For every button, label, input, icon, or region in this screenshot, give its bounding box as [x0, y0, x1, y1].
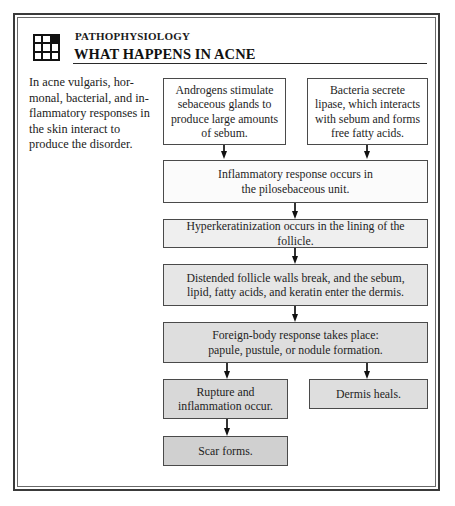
- box-inflammatory-response: Inflammatory response occurs in the pilo…: [163, 160, 428, 203]
- box-distended-follicle-text: Distended follicle walls break, and the …: [176, 271, 416, 300]
- box-scar-forms-text: Scar forms.: [198, 444, 252, 459]
- box-androgens-text: Androgens stimulate sebaceous glands to …: [170, 83, 279, 141]
- box-foreign-body-response: Foreign-body response takes place: papul…: [163, 322, 428, 363]
- page-title: WHAT HAPPENS IN ACNE: [74, 46, 256, 63]
- box-foreign-body-response-text: Foreign-body response takes place: papul…: [206, 328, 386, 357]
- box-dermis-heals-text: Dermis heals.: [336, 387, 401, 402]
- intro-text: In acne vulgaris, hor-monal, bacterial, …: [29, 75, 151, 153]
- box-hyperkeratinization: Hyperkeratinization occurs in the lining…: [163, 219, 428, 248]
- box-bacteria-text: Bacteria secrete lipase, which interacts…: [314, 83, 421, 141]
- box-androgens: Androgens stimulate sebaceous glands to …: [163, 78, 286, 145]
- box-bacteria: Bacteria secrete lipase, which interacts…: [307, 78, 428, 145]
- box-rupture-text: Rupture and inflammation occur.: [176, 385, 276, 414]
- box-scar-forms: Scar forms.: [163, 436, 288, 466]
- box-inflammatory-response-text: Inflammatory response occurs in the pilo…: [211, 167, 381, 196]
- section-kicker: PATHOPHYSIOLOGY: [75, 30, 190, 42]
- box-hyperkeratinization-text: Hyperkeratinization occurs in the lining…: [170, 219, 421, 248]
- grid-3x3-icon: [33, 34, 60, 61]
- box-dermis-heals: Dermis heals.: [309, 379, 428, 409]
- box-rupture: Rupture and inflammation occur.: [163, 379, 288, 419]
- title-divider: [73, 63, 427, 64]
- box-distended-follicle: Distended follicle walls break, and the …: [163, 264, 428, 306]
